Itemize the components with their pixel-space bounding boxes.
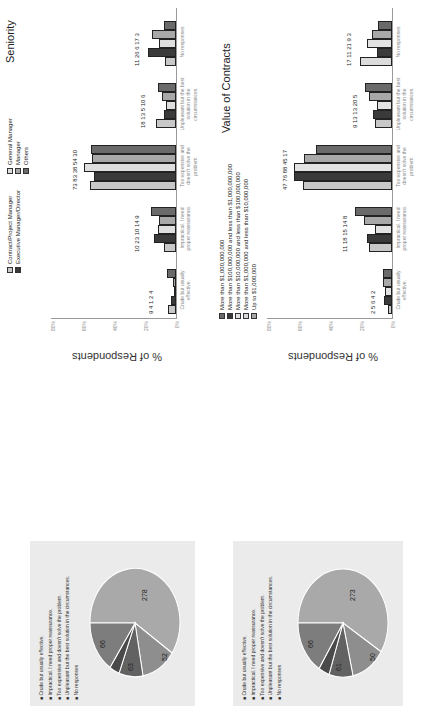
y-tick: 0% [390,321,396,328]
value-of-contracts-chart: Value of Contracts More than $1,000,000,… [218,3,433,363]
bullet-icon: ■ [38,696,44,700]
legend-label: More than $100,000,000 and less than $1,… [227,164,233,310]
legend-label: Crude but usually effective. [38,635,44,695]
legend-swatch [235,313,241,319]
legend-swatch [219,313,225,319]
legend-item: More than $10,000,000 and less than $100… [234,164,242,319]
legend-label: Manager [15,141,21,165]
pie-1-graphic: 278 52 63 66 [80,558,190,688]
y-tick: 80% [50,321,56,331]
y-tick: 0% [174,321,180,328]
bullet-icon: ■ [259,696,265,700]
value-labels: 2 5 6 4 2 [370,291,376,314]
slice-label: 278 [141,589,148,601]
legend-label: General Manager [7,118,13,165]
legend-label: Unpleasant but the best solution in the … [267,576,273,696]
seniority-title: Seniority [4,20,16,63]
bullet-icon: ■ [241,696,247,700]
legend-item: ■ Crude but usually effective. [38,562,45,700]
legend-item: ■ No responses [276,562,283,700]
y-tick: 20% [359,321,365,331]
value-labels: 10 23 10 14 9 [134,215,140,252]
legend-item: Manager [14,118,22,174]
value-of-contracts-legend: More than $1,000,000,000 More than $100,… [218,164,258,319]
bullet-icon: ■ [267,696,273,700]
bar-group: 9 13 13 20 5 Unpleasant but the best sol… [365,83,392,128]
legend-label: Up to $1,000,000 [251,264,257,310]
y-tick: 80% [266,321,272,331]
slice-label: 61 [335,663,342,671]
bullet-icon: ■ [64,696,70,700]
y-tick: 20% [143,321,149,331]
legend-item: Others [22,118,30,174]
bar-group: 9 4 1 2 4 Crude but usually effective. [167,269,176,314]
legend-item: General Manager [6,118,14,174]
value-labels: 73 83 38 54 30 [72,150,78,190]
legend-swatch [251,313,257,319]
legend-item: Contract/Project Manager [6,190,14,273]
legend-label: Others [23,147,29,165]
rotated-figure: Seniority Contract/Project Manager Execu… [0,0,433,718]
value-labels: 17 11 21 9 3 [346,33,352,66]
value-labels: 11 18 15 14 8 [342,216,348,252]
legend-item: ■ Too expensive and doesn't solve the pr… [56,562,63,700]
legend-item: Executive Manager/Director [14,190,22,273]
y-tick: 40% [328,321,334,331]
seniority-legend: Contract/Project Manager Executive Manag… [6,118,30,273]
y-axis-ticks: 0% 20% 40% 60% 80% [218,321,433,343]
legend-item: Up to $1,000,000 [250,164,258,319]
legend-swatch [7,267,13,273]
value-labels: 18 13 5 10 6 [140,95,146,128]
bar-group: 17 11 21 9 3 No responses [360,21,392,66]
bar-group: 18 13 5 10 6 Unpleasant but the best sol… [156,83,176,128]
legend-item: ■ Unpleasant but the best solution in th… [64,562,71,700]
slice-label: 50 [369,653,376,661]
y-tick: 60% [81,321,87,331]
legend-item: ■ Unpleasant but the best solution in th… [267,562,274,700]
legend-label: Too expensive and doesn't solve the prob… [56,594,62,695]
slice-label: 273 [349,589,356,601]
legend-label: More than $1,000,000,000 [219,240,225,310]
value-labels: 9 4 1 2 4 [148,291,154,314]
value-of-contracts-title: Value of Contracts [220,43,232,133]
bar-group: 11 26 6 17 3 No responses [148,21,176,66]
legend-item: ■ Too expensive and doesn't solve the pr… [259,562,266,700]
slice-label: 52 [161,653,168,661]
category-label: No responses [395,14,401,70]
category-label: Impractical. I need proper reassurance. [395,200,408,256]
y-axis-label: % of Respondents [42,345,192,363]
value-of-contracts-plot-area: 2 5 6 4 2 Crude but usually effective. 1… [267,8,393,319]
y-axis-label: % of Respondents [258,345,408,363]
legend-swatch [7,168,13,174]
bullet-icon: ■ [276,696,282,700]
bar-group: 10 23 10 14 9 Impractical. I need proper… [151,207,176,252]
pie-1-legend: ■ Crude but usually effective. ■ Impract… [38,562,82,700]
value-labels: 9 13 13 20 5 [352,95,358,128]
legend-item: ■ Crude but usually effective. [241,562,248,700]
bar-group: 47 76 88 45 17 Too expensive and doesn't… [294,145,392,190]
pie-chart-2: ■ Crude but usually effective. ■ Impract… [233,541,403,706]
y-tick: 60% [297,321,303,331]
pie-chart-1: ■ Crude but usually effective. ■ Impract… [30,541,195,706]
legend-label: No responses [276,665,282,696]
legend-label: Contract/Project Manager [7,196,13,264]
legend-label: Crude but usually effective. [241,635,247,695]
legend-swatch [243,313,249,319]
category-label: Crude but usually effective. [179,262,192,318]
legend-label: Impractical. I need proper reassurance. [47,609,53,696]
category-label: Unpleasant but the best solution in the … [179,76,198,132]
legend-item: More than $100,000,000 and less than $1,… [226,164,234,319]
legend-label: Too expensive and doesn't solve the prob… [259,594,265,695]
legend-item: More than $1,000,000,000 [218,164,226,319]
category-label: Unpleasant but the best solution in the … [395,76,414,132]
legend-label: Unpleasant but the best solution in the … [64,576,70,696]
pie-2-graphic: 273 50 61 66 [288,558,398,688]
legend-label: Impractical. I need proper reassurance. [250,609,256,696]
category-label: Impractical. I need proper reassurance. [179,200,192,256]
legend-swatch [15,168,21,174]
bullet-icon: ■ [47,696,53,700]
legend-item: ■ No responses [73,562,80,700]
legend-label: Executive Manager/Director [15,190,21,264]
legend-label: No responses [73,665,79,696]
value-labels: 47 76 88 45 17 [282,150,288,190]
